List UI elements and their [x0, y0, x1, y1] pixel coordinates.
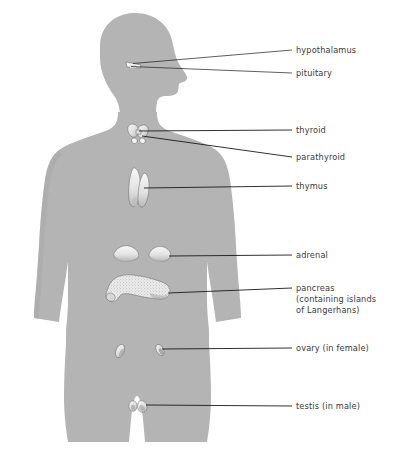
label-parathyroid: parathyroid: [296, 152, 345, 162]
label-ovary: ovary (in female): [296, 343, 369, 353]
label-adrenal: adrenal: [296, 250, 328, 260]
label-hypothalamus: hypothalamus: [296, 45, 356, 55]
body-silhouette: [34, 13, 241, 442]
torso-silhouette: [34, 112, 241, 348]
organ-thymus: [129, 168, 149, 207]
label-thymus: thymus: [296, 181, 328, 191]
pelvis-thighs: [64, 344, 211, 442]
label-pancreas-detail-1: (containing islands: [296, 294, 376, 304]
label-pituitary: pituitary: [296, 68, 332, 78]
endocrine-glands-figure: hypothalamus pituitary thyroid parathyro…: [0, 0, 401, 455]
label-group: hypothalamus pituitary thyroid parathyro…: [296, 45, 376, 411]
organ-testis: [129, 401, 147, 412]
testis-left-shade: [131, 405, 135, 411]
head-profile: [100, 13, 187, 117]
label-pancreas-detail-2: of Langerhans): [296, 305, 360, 315]
label-thyroid: thyroid: [296, 125, 326, 135]
label-pancreas: pancreas: [296, 283, 335, 293]
label-testis: testis (in male): [296, 401, 360, 411]
